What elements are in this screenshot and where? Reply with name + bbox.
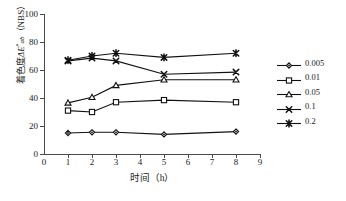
marker-square xyxy=(286,77,291,82)
legend-item-0.1[interactable]: 0.1 xyxy=(276,101,324,112)
y-axis-title-symbol: ΔE xyxy=(16,46,26,57)
legend-key-asterisk-icon xyxy=(276,115,302,126)
legend-label: 0.05 xyxy=(305,87,320,97)
y-tick-label: 40 xyxy=(29,93,38,103)
marker-diamond xyxy=(89,130,94,135)
y-axis-title-superscript: * xyxy=(15,43,21,46)
marker-triangle xyxy=(233,77,239,82)
marker-square xyxy=(233,100,238,105)
legend-label: 0.2 xyxy=(305,116,316,126)
marker-diamond xyxy=(113,130,118,135)
x-tick-label: 9 xyxy=(258,157,263,167)
y-tick xyxy=(40,154,44,155)
chart-legend: 0.0050.010.050.10.2 xyxy=(276,57,324,126)
legend-key-triangle-icon xyxy=(276,86,302,97)
legend-item-0.005[interactable]: 0.005 xyxy=(276,57,324,68)
marker-diamond xyxy=(65,130,70,135)
chart-container: 着色度ΔE*ab（NBS） 020406080100 0123456789 时间… xyxy=(0,0,346,201)
legend-label: 0.1 xyxy=(305,101,316,111)
series-0.005 xyxy=(65,129,238,137)
x-tick-label: 7 xyxy=(210,157,215,167)
x-tick-label: 0 xyxy=(42,157,47,167)
y-axis-title-prefix: 着色度 xyxy=(16,57,26,84)
x-tick-label: 8 xyxy=(234,157,239,167)
legend-item-0.2[interactable]: 0.2 xyxy=(276,115,324,126)
marker-diamond xyxy=(233,129,238,134)
marker-triangle xyxy=(65,100,71,105)
series-0.2 xyxy=(65,50,238,64)
legend-label: 0.01 xyxy=(305,72,320,82)
x-tick-label: 5 xyxy=(162,157,167,167)
marker-diamond xyxy=(161,132,166,137)
marker-triangle xyxy=(113,82,119,87)
x-tick-label: 1 xyxy=(66,157,71,167)
series-layer xyxy=(44,14,260,154)
y-tick-label: 100 xyxy=(25,9,39,19)
legend-key-cross-icon xyxy=(276,101,302,112)
x-axis-line xyxy=(44,154,260,155)
marker-square xyxy=(161,98,166,103)
marker-square xyxy=(113,100,118,105)
y-axis-title-subscript: ab xyxy=(18,36,26,43)
plot-area: 020406080100 0123456789 xyxy=(44,14,260,154)
marker-triangle xyxy=(89,94,95,99)
marker-square xyxy=(65,108,70,113)
x-axis-title: 时间（h） xyxy=(44,170,260,184)
y-tick-label: 60 xyxy=(29,65,38,75)
y-tick-label: 0 xyxy=(34,149,39,159)
legend-item-0.05[interactable]: 0.05 xyxy=(276,86,324,97)
legend-key-diamond-icon xyxy=(276,57,302,68)
marker-triangle xyxy=(286,92,292,97)
x-tick-label: 6 xyxy=(186,157,191,167)
x-tick-label: 2 xyxy=(90,157,95,167)
y-tick-label: 80 xyxy=(29,37,38,47)
legend-label: 0.005 xyxy=(305,58,324,68)
y-tick-label: 20 xyxy=(29,121,38,131)
x-tick-label: 3 xyxy=(114,157,119,167)
legend-key-square-icon xyxy=(276,72,302,83)
legend-item-0.01[interactable]: 0.01 xyxy=(276,72,324,83)
x-tick-label: 4 xyxy=(138,157,143,167)
marker-diamond xyxy=(286,63,291,68)
marker-square xyxy=(89,109,94,114)
marker-triangle xyxy=(161,77,167,82)
